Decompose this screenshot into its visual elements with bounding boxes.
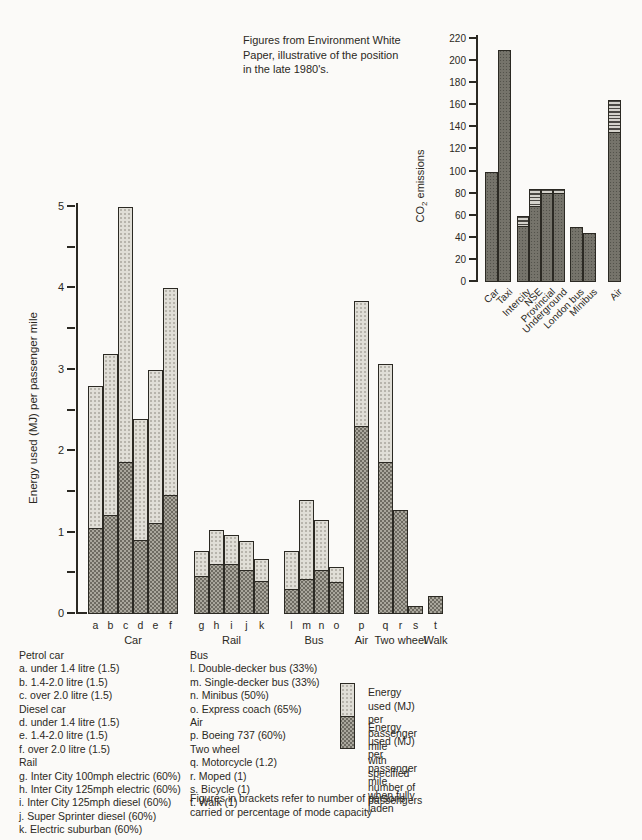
co2-tick-label: 100 [442,166,466,177]
bar-d-laden-segment [134,540,147,613]
co2-bar-solid-segment [554,193,564,281]
co2-tick [469,258,476,260]
bar-f-laden-segment [164,495,177,613]
energy-tick-label: 5 [42,201,64,212]
legend-line: q. Motorcycle (1.2) [190,756,320,769]
bar-k-laden-segment [255,581,268,613]
bar-letter-p: p [351,619,372,631]
bar-g-laden-segment [195,576,208,613]
legend-line: o. Express coach (65%) [190,703,320,716]
bar-m-laden-segment [300,579,313,613]
energy-tick-label: 4 [42,282,64,293]
bar-f-specified-segment [164,289,177,497]
legend-line: d. under 1.4 litre (1.5) [19,716,181,729]
bar-n [314,520,329,614]
co2-bar-intercity [517,216,529,282]
co2-tick-label: 160 [442,99,466,110]
energy-tick [67,286,75,288]
co2-bar-solid-segment [609,132,620,281]
legend-line: h. Inter City 125mph electric (60%) [19,783,181,796]
legend-line: g. Inter City 100mph electric (60%) [19,770,181,783]
co2-bar-solid-segment [584,233,595,281]
co2-bar-london-bus [570,227,583,282]
bar-t [428,596,443,614]
co2-tick-label: 120 [442,143,466,154]
bar-e-specified-segment [149,371,162,526]
bar-s [408,606,423,614]
bar-i [224,535,239,614]
bar-d [133,419,148,614]
bar-letter-o: o [326,619,347,631]
legend-line: Two wheel [190,743,320,756]
co2-bar-car [485,172,498,282]
co2-tick-label: 200 [442,55,466,66]
bar-n-specified-segment [315,521,328,571]
energy-tick-label: 0 [42,608,64,619]
co2-tick [469,59,476,61]
bar-c-laden-segment [119,462,132,613]
bar-letter-s: s [405,619,426,631]
co2-tick [469,170,476,172]
bar-letter-f: f [160,619,181,631]
co2-bar-solid-segment [518,226,528,281]
co2-tick-label: 60 [442,210,466,221]
energy-tick [67,368,75,370]
co2-bar-solid-segment [542,193,552,281]
bar-m [299,500,314,614]
legend-line: Diesel car [19,703,181,716]
energy-tick [67,490,75,492]
bar-a [88,386,103,614]
bar-o [329,567,344,614]
bar-r [393,510,408,614]
scanned-chart-page: Figures from Environment White Paper, il… [0,0,642,840]
bar-h [209,530,224,614]
co2-bar-minibus [583,233,596,282]
legend-line: r. Moped (1) [190,770,320,783]
co2-tick-label: 20 [442,254,466,265]
bar-j [239,541,254,614]
co2-bar-striped-segment [609,101,620,134]
co2-bar-provincial [541,189,553,282]
bar-k [254,559,269,614]
bar-h-specified-segment [210,531,223,566]
bar-l-specified-segment [285,552,298,591]
bar-i-laden-segment [225,564,238,613]
co2-bar-solid-segment [486,172,497,281]
energy-axis-foot [76,612,87,614]
co2-tick-label: 140 [442,121,466,132]
co2-tick [469,125,476,127]
bar-letter-t: t [425,619,446,631]
group-label-rail: Rail [187,634,277,646]
co2-bar-air [608,100,621,282]
bar-r-laden-segment [394,510,407,613]
legend-column-cars-rail: Petrol cara. under 1.4 litre (1.5)b. 1.4… [19,649,181,837]
legend-line: c. over 2.0 litre (1.5) [19,689,181,702]
energy-y-axis [76,203,78,614]
legend-line: k. Electric suburban (60%) [19,823,181,836]
co2-tick [469,37,476,39]
energy-tick-label: 3 [42,364,64,375]
co2-tick [469,192,476,194]
co2-tick [469,214,476,216]
legend-line: a. under 1.4 litre (1.5) [19,662,181,675]
legend-line: n. Minibus (50%) [190,689,320,702]
bar-j-specified-segment [240,542,253,572]
bar-s-laden-segment [409,606,422,613]
co2-tick-label: 40 [442,232,466,243]
energy-tick [67,205,75,207]
bar-g [194,551,209,614]
bar-f [163,288,178,614]
bar-o-laden-segment [330,582,343,613]
co2-bar-chart: 020406080100120140160180200220CarTaxiInt… [478,38,630,281]
energy-tick [67,409,75,411]
bar-p-laden-segment [355,426,368,613]
bar-q [378,364,393,614]
fully-laden-swatch [340,716,355,749]
bar-p [354,301,369,614]
bar-i-specified-segment [225,536,238,566]
energy-tick-label: 2 [42,445,64,456]
co2-tick-label: 180 [442,77,466,88]
legend-line: m. Single-decker bus (33%) [190,676,320,689]
legend-column-bus-air-twowheel: Busl. Double-decker bus (33%)m. Single-d… [190,649,320,810]
energy-tick [67,531,75,533]
